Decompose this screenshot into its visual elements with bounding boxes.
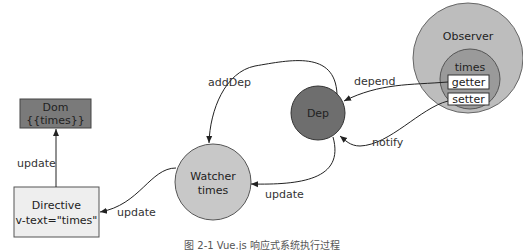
edge-label-depend: depend bbox=[354, 75, 395, 88]
getter-label: getter bbox=[452, 76, 486, 89]
directive-node: Directive v-text="times" bbox=[14, 187, 99, 237]
dep-node: Dep bbox=[291, 86, 345, 140]
figure-caption: 图 2-1 Vue.js 响应式系统执行过程 bbox=[184, 239, 340, 250]
dep-label: Dep bbox=[307, 107, 329, 120]
edge-dep-watcher-update bbox=[251, 137, 335, 184]
edge-label-update-watcher: update bbox=[265, 188, 304, 201]
edge-label-adddep: addDep bbox=[208, 76, 251, 89]
dom-sublabel: {{times}} bbox=[26, 114, 85, 127]
times-label: times bbox=[455, 61, 486, 74]
edge-label-update-dom: update bbox=[17, 157, 56, 170]
dom-node: Dom {{times}} bbox=[20, 99, 91, 128]
times-property-node: times getter setter bbox=[440, 49, 500, 109]
directive-sublabel: v-text="times" bbox=[16, 214, 98, 227]
setter-label: setter bbox=[452, 93, 485, 106]
reactivity-diagram: Observer times getter setter Dep Watcher… bbox=[0, 0, 523, 250]
dom-label: Dom bbox=[43, 101, 69, 114]
directive-label: Directive bbox=[32, 199, 82, 212]
watcher-node: Watcher times bbox=[175, 144, 251, 220]
edge-label-update-directive: update bbox=[117, 206, 156, 219]
watcher-sublabel: times bbox=[198, 184, 229, 197]
edge-label-notify: notify bbox=[372, 136, 404, 149]
watcher-label: Watcher bbox=[190, 170, 236, 183]
observer-label: Observer bbox=[443, 30, 494, 43]
